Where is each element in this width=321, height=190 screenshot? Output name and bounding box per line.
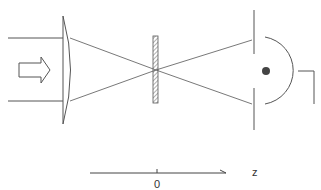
ray-upper-diverging (156, 40, 252, 70)
detector-lead (298, 71, 314, 104)
sample-plate (153, 36, 158, 103)
z-axis-origin-label: 0 (154, 178, 160, 190)
diagram-canvas (0, 0, 321, 190)
ray-lower-converging (70, 70, 156, 101)
detector-point-icon (262, 67, 270, 75)
lens (63, 16, 71, 124)
z-axis-label: z (252, 166, 258, 178)
ray-lower-diverging (156, 70, 252, 104)
ray-upper-converging (70, 38, 156, 70)
beam-direction-arrow-icon (19, 57, 50, 83)
